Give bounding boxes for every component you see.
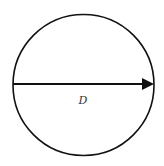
diagram-canvas: D	[0, 0, 164, 166]
circle-outline	[13, 15, 154, 156]
diameter-label: D	[78, 94, 88, 107]
arrowhead-icon	[142, 78, 154, 90]
